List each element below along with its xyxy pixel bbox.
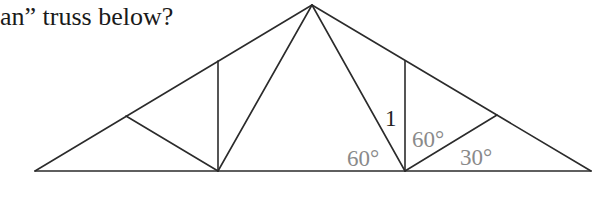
left-web-diagonal [126, 116, 218, 171]
angle-left-diagonal-label: 60° [347, 146, 379, 171]
angle-right-base-label: 30° [460, 145, 492, 170]
angle-right-vertical-label: 60° [412, 127, 444, 152]
left-center-diagonal [218, 5, 312, 171]
member-length-label: 1 [385, 106, 397, 131]
top-chord-left [35, 5, 312, 171]
fan-truss-diagram: 1 60° 60° 30° [0, 0, 605, 205]
